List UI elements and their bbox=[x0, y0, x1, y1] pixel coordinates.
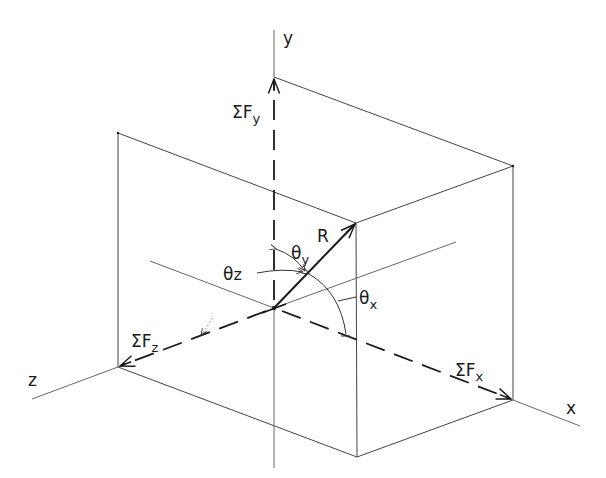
z-axis-ext bbox=[32, 367, 118, 399]
y-axis-label: y bbox=[283, 30, 293, 47]
box-edges bbox=[118, 77, 513, 457]
theta-x-arc bbox=[309, 274, 346, 334]
sum-fx-label: ΣFx bbox=[455, 362, 483, 383]
sum-fx-vector bbox=[282, 311, 511, 399]
diagram-canvas bbox=[0, 0, 606, 478]
resultant-vector bbox=[274, 224, 355, 308]
theta-z-label: θz bbox=[223, 266, 242, 283]
resultant-label: R bbox=[317, 228, 329, 245]
angle-arcs bbox=[201, 249, 356, 336]
theta-x-leader bbox=[338, 297, 356, 301]
theta-y-label: θy bbox=[291, 245, 309, 266]
force-diagram: y x z ΣFy ΣFx ΣFz R θy θz θx bbox=[0, 0, 606, 478]
neg-x-guide bbox=[150, 261, 274, 308]
theta-x-label: θx bbox=[359, 290, 377, 311]
sum-fy-label: ΣFy bbox=[232, 104, 260, 125]
z-axis-label: z bbox=[28, 372, 37, 389]
sum-fz-label: ΣFz bbox=[131, 333, 158, 354]
force-components bbox=[120, 79, 511, 399]
x-axis-label: x bbox=[566, 400, 576, 417]
theta-z-leader bbox=[257, 270, 303, 273]
